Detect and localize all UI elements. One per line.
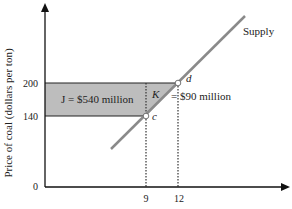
x-axis-arrow-icon [281, 183, 290, 191]
area-k-value: = $90 million [171, 90, 231, 102]
x-tick-9: 9 [144, 193, 149, 204]
x-tick-12: 12 [174, 193, 184, 204]
y-tick-200: 200 [23, 78, 38, 89]
point-c-label: c [152, 110, 157, 122]
y-axis-arrow-icon [41, 3, 49, 12]
point-c-marker [143, 113, 149, 119]
y-tick-140: 140 [23, 111, 38, 122]
point-d-label: d [186, 72, 192, 84]
y-tick-0: 0 [33, 181, 38, 192]
supply-label: Supply [243, 25, 275, 37]
area-k-label: K [151, 88, 160, 100]
area-j-label: J = $540 million [61, 93, 134, 105]
y-axis-label: Price of coal (dollars per ton) [2, 38, 14, 188]
point-d-marker [175, 80, 181, 86]
chart: Supply d c J = $540 million K = $90 mill… [0, 0, 292, 209]
